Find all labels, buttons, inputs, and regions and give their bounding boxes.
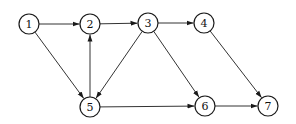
node-label: 7 [265, 100, 272, 113]
node-label: 1 [26, 18, 33, 31]
edge-5-to-6 [100, 106, 195, 107]
edge-1-to-5 [35, 32, 84, 98]
node-5: 5 [80, 97, 100, 117]
node-3: 3 [138, 13, 158, 33]
directed-graph: 1234567 [0, 0, 296, 124]
node-label: 5 [87, 101, 94, 114]
edge-4-to-7 [210, 31, 261, 98]
node-label: 3 [145, 17, 152, 30]
node-6: 6 [195, 96, 215, 116]
edges [35, 23, 262, 107]
node-7: 7 [258, 96, 278, 116]
node-label: 2 [87, 18, 94, 31]
edge-2-to-3 [100, 23, 138, 24]
node-2: 2 [80, 14, 100, 34]
node-label: 6 [202, 100, 209, 113]
node-1: 1 [19, 14, 39, 34]
node-label: 4 [201, 17, 208, 30]
edge-3-to-5 [96, 31, 142, 98]
nodes: 1234567 [19, 13, 278, 117]
edge-3-to-6 [154, 31, 199, 97]
node-4: 4 [194, 13, 214, 33]
